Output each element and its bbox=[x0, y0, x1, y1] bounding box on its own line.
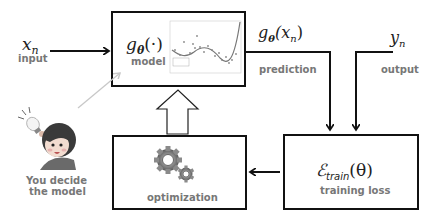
prediction-node: gθ(xn) prediction bbox=[258, 23, 317, 75]
input-node: xn input bbox=[18, 34, 48, 64]
prediction-symbol: gθ(xn) bbox=[258, 23, 303, 44]
model-label: model bbox=[131, 56, 166, 67]
output-symbol: yn bbox=[389, 28, 406, 49]
user-label-line1: You decide bbox=[25, 175, 87, 186]
model-fit-plot bbox=[170, 21, 241, 73]
update-model-arrow bbox=[157, 90, 198, 134]
model-text: gθ(·) model bbox=[126, 34, 166, 67]
user-label-line2: the model bbox=[29, 186, 86, 197]
optimization-label: optimization bbox=[147, 192, 218, 203]
prediction-label: prediction bbox=[259, 64, 317, 75]
ml-pipeline-diagram: xn input gθ(·) model gθ(xn) prediction bbox=[0, 0, 432, 220]
user-to-model-arrow bbox=[78, 73, 120, 108]
input-label: input bbox=[18, 53, 48, 64]
loss-label: training loss bbox=[320, 185, 390, 196]
person-with-idea-icon bbox=[18, 107, 76, 170]
output-label: output bbox=[381, 64, 419, 75]
model-symbol: gθ(·) bbox=[126, 34, 163, 57]
